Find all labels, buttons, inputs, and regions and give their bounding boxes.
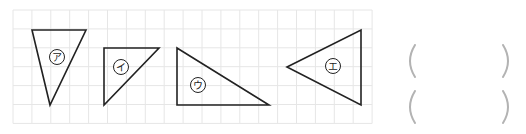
right-paren-icon <box>500 90 514 124</box>
answer-blank-1[interactable] <box>400 44 516 80</box>
triangle-label: イ <box>116 62 126 73</box>
triangle-outline <box>177 48 269 105</box>
triangle-outline <box>104 48 159 105</box>
answer-blank-2[interactable] <box>400 90 516 126</box>
triangle-e: エ <box>287 30 361 105</box>
triangle-label: エ <box>328 61 338 72</box>
right-paren-icon <box>500 44 514 78</box>
grid-paper <box>13 10 372 123</box>
triangle-label: ウ <box>193 80 203 91</box>
triangles-group: アイウエ <box>32 30 361 105</box>
triangle-label: ア <box>52 52 62 63</box>
triangle-outline <box>287 30 361 105</box>
triangle-a: ア <box>32 30 86 105</box>
triangle-u: ウ <box>177 48 269 105</box>
left-paren-icon <box>404 44 418 78</box>
triangle-i: イ <box>104 48 159 105</box>
left-paren-icon <box>404 90 418 124</box>
triangle-outline <box>32 30 86 105</box>
